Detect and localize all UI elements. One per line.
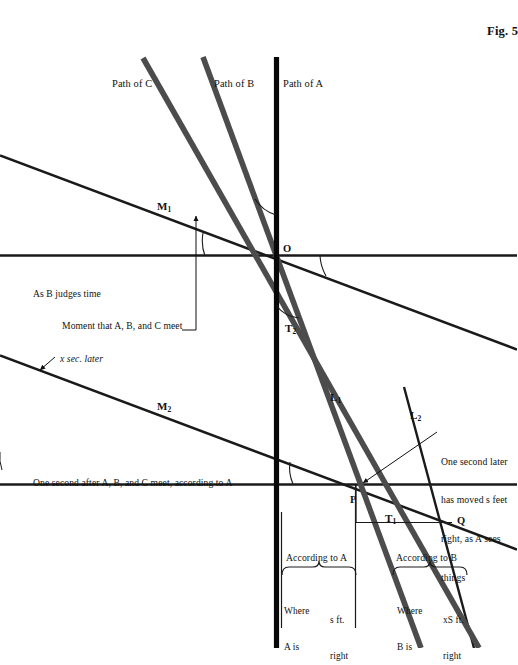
angle-arc-left-lower bbox=[0, 452, 2, 470]
bracket-b-right-line-2: right bbox=[443, 650, 464, 662]
note-one-second-after: One second after A, B, and C meet, accor… bbox=[33, 477, 232, 488]
label-m1-sub: 1 bbox=[168, 205, 172, 214]
bracket-a-left-line-1: Where bbox=[284, 605, 309, 617]
bracket-b-right-line-1: xS ft. bbox=[443, 614, 464, 626]
note-one-second-later-line-4: things bbox=[441, 572, 517, 585]
figure-number: Fig. 5 bbox=[487, 24, 518, 39]
label-point-p: P bbox=[350, 494, 357, 506]
label-l2: L2 bbox=[410, 409, 421, 422]
label-m2-sub: 2 bbox=[168, 405, 172, 414]
leader-x-sec-later bbox=[40, 357, 55, 370]
note-one-second-later-line-2: has moved s feet bbox=[441, 494, 517, 507]
bracket-b-left-label: Where B is bbox=[397, 581, 422, 665]
bracket-a-right-line-1: s ft. bbox=[330, 614, 348, 626]
bracket-b-left-line-1: Where bbox=[397, 605, 422, 617]
bracket-b-right-label: xS ft. right bbox=[443, 590, 464, 665]
angle-arc-right-o bbox=[320, 256, 326, 276]
label-l1: L1 bbox=[330, 391, 341, 404]
label-m2-base: M bbox=[157, 400, 168, 412]
label-t1-sub: 1 bbox=[392, 517, 396, 526]
label-m1: M1 bbox=[157, 200, 171, 213]
note-x-sec-later-text: x sec. later bbox=[60, 353, 103, 364]
bracket-title-according-to-b: According to B bbox=[396, 552, 457, 563]
bracket-b-left-line-2: B is bbox=[397, 641, 422, 653]
bracket-title-according-to-a: According to A bbox=[286, 552, 347, 563]
bracket-a-left-line-2: A is bbox=[284, 641, 309, 653]
note-as-b-judges-time: As B judges time bbox=[33, 288, 101, 299]
bracket-a-right-line-2: right bbox=[330, 650, 348, 662]
label-m2: M2 bbox=[157, 400, 171, 413]
label-m1-base: M bbox=[157, 200, 168, 212]
label-t1: T1 bbox=[385, 512, 396, 525]
label-t2: T2 bbox=[285, 322, 296, 335]
note-moment-meet: Moment that A, B, and C meet bbox=[62, 320, 182, 331]
label-t2-sub: 2 bbox=[292, 327, 296, 336]
label-path-of-b: Path of B bbox=[214, 78, 254, 90]
note-one-second-later-line-3: right, as A sees bbox=[441, 533, 517, 546]
label-path-of-a: Path of A bbox=[283, 78, 323, 90]
bracket-a-right-label: s ft. right bbox=[330, 590, 348, 665]
label-l2-sub: 2 bbox=[417, 414, 421, 423]
label-path-of-c: Path of C bbox=[112, 78, 152, 90]
label-point-o: O bbox=[283, 243, 291, 255]
note-x-sec-later: x sec. later bbox=[60, 353, 103, 364]
angle-arc-m1-horizontal bbox=[202, 233, 205, 256]
bracket-a-left-label: Where A is bbox=[284, 581, 309, 665]
note-one-second-later: One second later has moved s feet right,… bbox=[441, 430, 517, 610]
leader-one-second-later bbox=[363, 432, 437, 483]
label-l1-sub: 1 bbox=[337, 396, 341, 405]
note-one-second-later-line-1: One second later bbox=[441, 456, 517, 469]
